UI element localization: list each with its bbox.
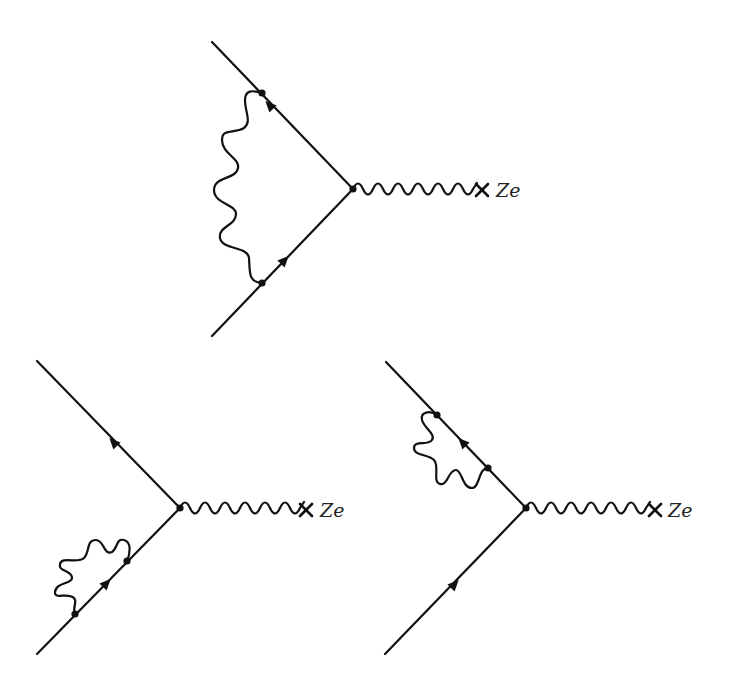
arrow-icon bbox=[106, 435, 121, 450]
vertex-dot bbox=[258, 89, 265, 96]
self-energy-photon-loop bbox=[414, 412, 488, 488]
internal-photon-line bbox=[214, 91, 262, 283]
vertex-dot bbox=[258, 279, 265, 286]
vertex-dot bbox=[71, 610, 78, 617]
external-photon-line bbox=[180, 502, 304, 514]
vertex-dot bbox=[123, 557, 130, 564]
outgoing-electron-line bbox=[212, 42, 353, 189]
cross-icon bbox=[300, 504, 312, 516]
feynman-diagrams-figure: Ze Ze Ze bbox=[0, 0, 736, 689]
arrow-icon bbox=[262, 98, 277, 113]
external-photon-line bbox=[526, 502, 650, 514]
diagram-self-energy-outgoing: Ze bbox=[385, 362, 692, 654]
external-field-label: Ze bbox=[495, 179, 520, 201]
arrow-icon bbox=[447, 577, 462, 592]
incoming-electron-line bbox=[385, 508, 526, 654]
self-energy-photon-loop bbox=[55, 540, 130, 614]
vertex-dot bbox=[433, 411, 440, 418]
external-field-label: Ze bbox=[319, 499, 344, 521]
diagram-vertex-correction: Ze bbox=[212, 42, 520, 336]
external-photon-line bbox=[353, 183, 477, 195]
outgoing-electron-line bbox=[386, 362, 526, 508]
outgoing-electron-line bbox=[37, 361, 180, 508]
external-field-label: Ze bbox=[667, 499, 692, 521]
cross-icon bbox=[476, 184, 488, 196]
vertex-dot bbox=[484, 464, 491, 471]
diagram-self-energy-incoming: Ze bbox=[37, 361, 344, 654]
cross-icon bbox=[649, 504, 661, 516]
